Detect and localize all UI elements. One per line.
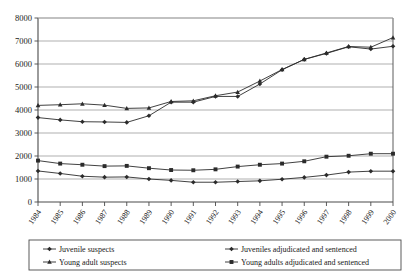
data-point-marker bbox=[347, 154, 351, 158]
data-point-marker bbox=[147, 166, 151, 170]
legend-label: Juveniles adjudicated and sentenced bbox=[241, 245, 357, 254]
data-point-marker bbox=[191, 168, 195, 172]
data-point-marker bbox=[169, 168, 173, 172]
data-point-marker bbox=[391, 152, 395, 156]
data-point-marker bbox=[80, 163, 84, 167]
legend-item[interactable]: Juveniles adjudicated and sentenced bbox=[225, 245, 357, 254]
legend-label: Juvenile suspects bbox=[59, 245, 114, 254]
y-axis-tick-label: 2000 bbox=[15, 151, 32, 161]
data-point-marker bbox=[324, 155, 328, 159]
data-point-marker bbox=[214, 167, 218, 171]
y-axis-tick-label: 7000 bbox=[15, 36, 32, 46]
line-chart: 010002000300040005000600070008000 198419… bbox=[0, 0, 403, 279]
legend-label: Young adults adjudicated and sentenced bbox=[241, 258, 369, 267]
y-axis-tick-label: 4000 bbox=[15, 105, 32, 115]
data-point-marker bbox=[236, 165, 240, 169]
data-point-marker bbox=[125, 164, 129, 168]
y-axis-tick-label: 8000 bbox=[15, 13, 32, 23]
data-point-marker bbox=[103, 164, 107, 168]
data-point-marker bbox=[58, 162, 62, 166]
chart-background bbox=[0, 0, 403, 279]
y-axis-tick-label: 6000 bbox=[15, 59, 32, 69]
data-point-marker bbox=[258, 163, 262, 167]
data-point-marker bbox=[280, 162, 284, 166]
y-axis-tick-label: 1000 bbox=[15, 174, 32, 184]
y-axis-tick-labels: 010002000300040005000600070008000 bbox=[15, 13, 32, 207]
y-axis-tick-label: 0 bbox=[28, 197, 32, 207]
y-axis-tick-label: 3000 bbox=[15, 128, 32, 138]
data-point-marker bbox=[369, 152, 373, 156]
y-axis-tick-label: 5000 bbox=[15, 82, 32, 92]
data-point-marker bbox=[230, 260, 234, 264]
legend-item[interactable]: Young adults adjudicated and sentenced bbox=[225, 258, 369, 267]
data-point-marker bbox=[36, 159, 40, 163]
data-point-marker bbox=[302, 159, 306, 163]
legend-label: Young adult suspects bbox=[59, 258, 127, 267]
chart-canvas: 010002000300040005000600070008000 198419… bbox=[0, 0, 403, 279]
